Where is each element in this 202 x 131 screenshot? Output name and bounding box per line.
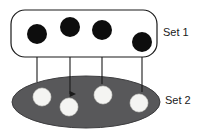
set1-label: Set 1: [163, 26, 189, 38]
set2-element: [60, 98, 78, 116]
diagram-canvas: Set 1 Set 2: [0, 0, 202, 131]
set1-element: [92, 20, 112, 40]
set1-group: [11, 10, 157, 57]
set1-element: [60, 17, 80, 37]
set-mapping-diagram: Set 1 Set 2: [0, 0, 202, 131]
set2-element: [94, 86, 112, 104]
set2-element: [130, 94, 148, 112]
set2-element: [33, 88, 51, 106]
set1-element: [27, 24, 47, 44]
set2-label: Set 2: [165, 94, 191, 106]
set1-element: [132, 32, 152, 52]
